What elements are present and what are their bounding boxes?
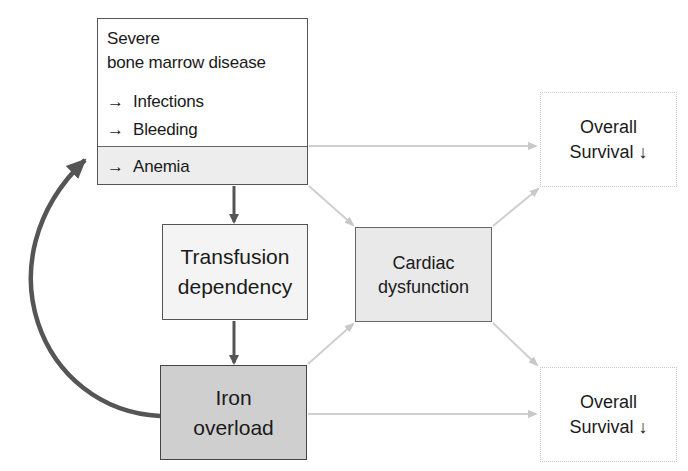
arrow-iron-to-anemia-feedback bbox=[31, 160, 160, 416]
arrow-cardiac-to-survival-bottom bbox=[493, 323, 537, 365]
arrow-iron-to-cardiac bbox=[308, 324, 353, 364]
item-anemia: →Anemia bbox=[107, 156, 189, 178]
overall-survival-top-node: Overall Survival ↓ bbox=[540, 92, 677, 187]
node-label-line2: overload bbox=[193, 413, 274, 443]
item-bleeding: →Bleeding bbox=[107, 119, 198, 141]
node-label-line1: Overall bbox=[580, 115, 637, 140]
right-arrow-icon: → bbox=[107, 156, 133, 178]
item-label: Bleeding bbox=[133, 120, 198, 139]
iron-overload-node: Iron overload bbox=[160, 365, 307, 460]
item-infections: →Infections bbox=[107, 91, 204, 113]
node-label-line2: Survival ↓ bbox=[569, 140, 647, 165]
transfusion-dependency-node: Transfusion dependency bbox=[162, 224, 308, 320]
cardiac-dysfunction-node: Cardiac dysfunction bbox=[355, 227, 492, 322]
item-label: Infections bbox=[133, 92, 204, 111]
node-label-line1: Transfusion bbox=[181, 242, 290, 272]
disease-title: Severe bone marrow disease bbox=[107, 27, 266, 75]
overall-survival-bottom-node: Overall Survival ↓ bbox=[540, 367, 677, 462]
severe-bone-marrow-disease-node: Severe bone marrow disease →Infections →… bbox=[97, 18, 308, 185]
right-arrow-icon: → bbox=[107, 119, 133, 141]
arrow-anemia-to-cardiac bbox=[309, 186, 353, 225]
right-arrow-icon: → bbox=[107, 91, 133, 113]
node-label-line1: Cardiac bbox=[392, 251, 454, 275]
item-label: Anemia bbox=[133, 157, 189, 176]
disease-title-line1: Severe bbox=[107, 27, 266, 51]
node-label-line1: Overall bbox=[580, 390, 637, 415]
disease-title-line2: bone marrow disease bbox=[107, 51, 266, 75]
node-label-line1: Iron bbox=[215, 383, 251, 413]
node-label-line2: Survival ↓ bbox=[569, 415, 647, 440]
node-label-line2: dysfunction bbox=[378, 275, 469, 299]
node-label-line2: dependency bbox=[178, 272, 292, 302]
arrow-cardiac-to-survival-top bbox=[493, 189, 538, 226]
